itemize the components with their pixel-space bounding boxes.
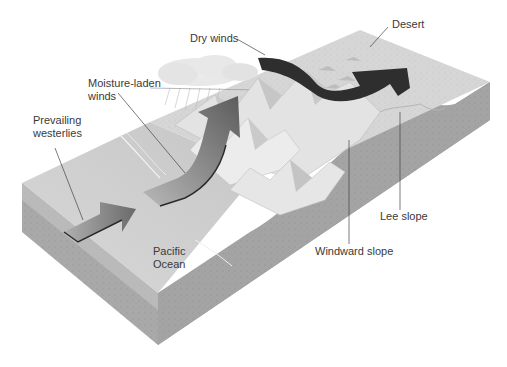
leader-dry-winds	[237, 39, 265, 55]
rain-shadow-diagram: Dry winds Desert Moisture-laden winds Pr…	[0, 0, 507, 367]
label-pacific-ocean: Pacific Ocean	[153, 245, 185, 271]
label-desert: Desert	[392, 18, 424, 31]
label-dry-winds: Dry winds	[190, 32, 238, 45]
label-prevailing-westerlies: Prevailing westerlies	[33, 114, 82, 140]
label-lee-slope: Lee slope	[380, 210, 428, 223]
label-moisture-laden-winds: Moisture-laden winds	[88, 77, 161, 103]
diagram-artwork	[0, 0, 507, 367]
label-windward-slope: Windward slope	[315, 245, 393, 258]
